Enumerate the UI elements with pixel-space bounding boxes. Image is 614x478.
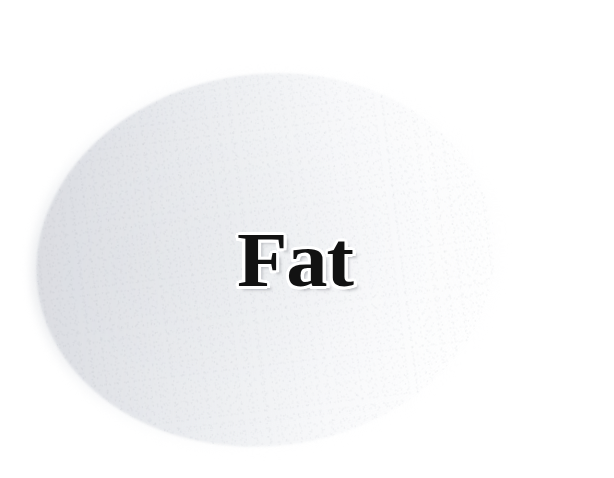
word-label: Fat (238, 222, 352, 298)
image-canvas: Fat (0, 0, 614, 478)
